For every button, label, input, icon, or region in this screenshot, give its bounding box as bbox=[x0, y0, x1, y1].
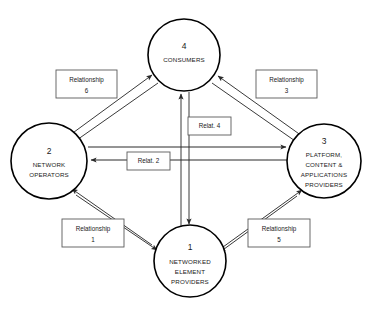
node-network-operators-label-line-1: NETWORK bbox=[33, 161, 66, 168]
label-relat-4-text: Relat. 4 bbox=[199, 122, 221, 129]
node-platform-label-line-1: PLATFORM, bbox=[306, 151, 342, 158]
node-consumers-label-line-1: CONSUMERS bbox=[163, 56, 205, 63]
node-networked-element-providers[interactable]: 1 NETWORKED ELEMENT PROVIDERS bbox=[154, 225, 226, 297]
label-relat-2[interactable]: Relat. 2 bbox=[127, 152, 170, 170]
relationship-diagram: 4 CONSUMERS 2 NETWORK OPERATORS 3 PLATFO… bbox=[0, 0, 369, 312]
label-relationship-3[interactable]: Relationship 3 bbox=[256, 70, 317, 98]
label-relationship-6-line-1: Relationship bbox=[69, 76, 104, 84]
node-platform-number: 3 bbox=[322, 136, 327, 146]
diagram-canvas: 4 CONSUMERS 2 NETWORK OPERATORS 3 PLATFO… bbox=[0, 0, 369, 312]
node-platform-label-line-2: CONTENT & bbox=[306, 161, 344, 168]
node-network-operators-label-line-2: OPERATORS bbox=[29, 171, 69, 178]
label-relat-4[interactable]: Relat. 4 bbox=[188, 117, 231, 135]
label-relationship-6-line-2: 6 bbox=[85, 87, 89, 94]
node-consumers-number: 4 bbox=[182, 41, 187, 51]
node-networked-element-providers-label-line-1: NETWORKED bbox=[169, 258, 211, 265]
label-relationship-6-box bbox=[56, 70, 117, 98]
label-relationship-1-box bbox=[62, 219, 124, 247]
label-relationship-1[interactable]: Relationship 1 bbox=[62, 219, 124, 247]
label-relationship-3-box bbox=[256, 70, 317, 98]
label-relationship-5-box bbox=[248, 219, 310, 247]
label-relationship-3-line-1: Relationship bbox=[269, 76, 304, 84]
node-consumers[interactable]: 4 CONSUMERS bbox=[148, 19, 220, 91]
node-platform-content-applications-providers[interactable]: 3 PLATFORM, CONTENT & APPLICATIONS PROVI… bbox=[287, 124, 361, 198]
label-relationship-1-line-1: Relationship bbox=[76, 225, 111, 233]
label-relationship-6[interactable]: Relationship 6 bbox=[56, 70, 117, 98]
node-network-operators-number: 2 bbox=[47, 146, 52, 156]
label-relationship-5-line-2: 5 bbox=[277, 236, 281, 243]
label-relationship-5[interactable]: Relationship 5 bbox=[248, 219, 310, 247]
node-networked-element-providers-number: 1 bbox=[188, 242, 193, 252]
node-networked-element-providers-label-line-3: PROVIDERS bbox=[171, 278, 209, 285]
label-relationship-1-line-2: 1 bbox=[91, 236, 95, 243]
connection-relat-2 bbox=[88, 147, 288, 160]
label-relationship-3-line-2: 3 bbox=[285, 87, 289, 94]
node-network-operators[interactable]: 2 NETWORK OPERATORS bbox=[11, 123, 87, 199]
label-relationship-5-line-1: Relationship bbox=[262, 225, 297, 233]
node-platform-label-line-3: APPLICATIONS bbox=[301, 171, 347, 178]
label-relat-2-text: Relat. 2 bbox=[138, 157, 160, 164]
node-platform-label-line-4: PROVIDERS bbox=[305, 181, 343, 188]
node-networked-element-providers-label-line-2: ELEMENT bbox=[175, 268, 205, 275]
